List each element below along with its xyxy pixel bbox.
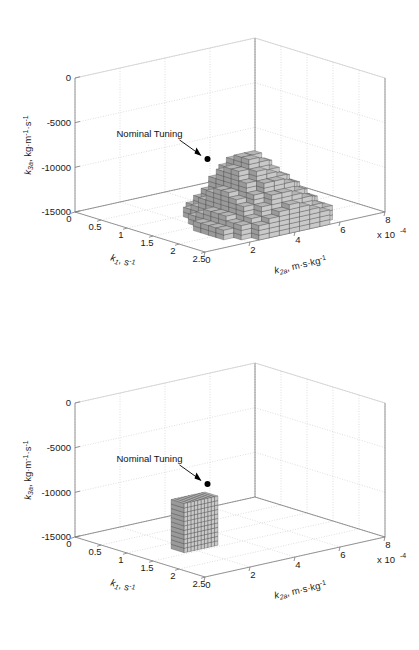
x-tick-label: 0 — [66, 213, 71, 224]
x-axis-title-text: k1, s-1 — [109, 577, 136, 596]
x-tick-label: 2 — [170, 245, 175, 256]
chart-panel-top: 0-5000-10000-1500000.511.522.502468x 10-… — [0, 0, 419, 325]
x-tick-label: 0.5 — [88, 546, 101, 557]
nominal-tuning-arrowhead — [195, 147, 202, 156]
plot-svg-bottom: 0-5000-10000-1500000.511.522.502468x 10-… — [0, 325, 419, 650]
top-data-volume — [183, 151, 332, 240]
y-tick-label: 8 — [385, 539, 390, 550]
z-axis-title-text: k3a, kg·m-1·s-1 — [22, 440, 34, 499]
y-axis-exponent-text: x 10 — [377, 229, 395, 240]
x-tick-label: 2.5 — [192, 253, 205, 264]
y-tick-label: 0 — [205, 579, 210, 590]
y-tick-label: 2 — [250, 244, 255, 255]
x-tick-label: 2 — [170, 570, 175, 581]
y-axis-exponent: x 10-4 — [377, 227, 406, 240]
top-annotations: Nominal Tuning — [116, 128, 210, 162]
gridline — [255, 83, 385, 123]
bottom-data-volume — [171, 492, 218, 553]
axis-line — [255, 363, 385, 403]
voxel-face-right — [184, 503, 187, 508]
gridline — [255, 127, 385, 167]
x-tick-label: 2.5 — [192, 578, 205, 589]
x-axis-title: k1, s-1 — [109, 577, 136, 596]
bottom-grid — [75, 363, 385, 577]
y-axis-title-text: k2a, m·s·kg-1 — [273, 253, 328, 276]
y-tick-label: 6 — [340, 224, 345, 235]
top-labels: 0-5000-10000-1500000.511.522.502468x 10-… — [22, 72, 406, 276]
nominal-tuning-label: Nominal Tuning — [116, 453, 182, 464]
z-axis-title-text: k3a, kg·m-1·s-1 — [22, 115, 34, 174]
y-tick-label: 4 — [295, 559, 300, 570]
plot-svg-top: 0-5000-10000-1500000.511.522.502468x 10-… — [0, 0, 419, 325]
z-tick-label: -10000 — [41, 162, 71, 173]
y-axis-exponent: x 10-4 — [377, 552, 406, 565]
z-tick — [75, 491, 80, 492]
x-tick-label: 0 — [66, 538, 71, 549]
y-axis-exponent-power: -4 — [400, 227, 406, 234]
y-tick-label: 0 — [205, 254, 210, 265]
z-axis-title: k3a, kg·m-1·s-1 — [22, 440, 34, 499]
y-tick-label: 4 — [295, 234, 300, 245]
voxel-column — [234, 221, 252, 240]
figure-root: 0-5000-10000-1500000.511.522.502468x 10-… — [0, 0, 419, 650]
x-tick-label: 0.5 — [88, 221, 101, 232]
voxel-column — [251, 221, 269, 240]
chart-panel-bottom: 0-5000-10000-1500000.511.522.502468x 10-… — [0, 325, 419, 650]
bottom-axes — [71, 363, 385, 581]
z-axis-title: k3a, kg·m-1·s-1 — [22, 115, 34, 174]
nominal-tuning-annotation: Nominal Tuning — [116, 128, 210, 162]
y-axis-title: k2a, m·s·kg-1 — [273, 578, 328, 601]
nominal-tuning-marker — [205, 156, 211, 162]
nominal-tuning-annotation: Nominal Tuning — [116, 453, 210, 487]
y-axis-exponent-power: -4 — [400, 552, 406, 559]
voxel-column — [216, 226, 234, 240]
x-axis-title: k1, s-1 — [109, 252, 136, 271]
y-axis-title-text: k2a, m·s·kg-1 — [273, 578, 328, 601]
z-tick-label: 0 — [66, 72, 71, 83]
axis-line — [255, 497, 385, 537]
x-tick-label: 1 — [118, 229, 123, 240]
z-tick — [75, 446, 80, 447]
gridline — [255, 408, 385, 448]
z-tick — [75, 121, 80, 122]
nominal-tuning-label: Nominal Tuning — [116, 128, 182, 139]
z-tick — [75, 166, 80, 167]
y-tick-label: 2 — [250, 569, 255, 580]
y-tick-label: 6 — [340, 549, 345, 560]
gridline — [255, 452, 385, 492]
x-tick-label: 1 — [118, 554, 123, 565]
z-tick-label: -10000 — [41, 487, 71, 498]
nominal-tuning-arrowhead — [195, 472, 202, 481]
x-tick-label: 1.5 — [140, 237, 153, 248]
y-axis-exponent-text: x 10 — [377, 554, 395, 565]
bottom-annotations: Nominal Tuning — [116, 453, 210, 487]
z-tick-label: 0 — [66, 397, 71, 408]
z-tick-label: -5000 — [47, 117, 71, 128]
z-tick-label: -5000 — [47, 442, 71, 453]
y-tick-label: 8 — [385, 214, 390, 225]
gridline — [210, 507, 340, 547]
x-tick-label: 1.5 — [140, 562, 153, 573]
nominal-tuning-marker — [205, 481, 211, 487]
y-axis-title: k2a, m·s·kg-1 — [273, 253, 328, 276]
x-axis-title-text: k1, s-1 — [109, 252, 136, 271]
axis-line — [255, 38, 385, 78]
